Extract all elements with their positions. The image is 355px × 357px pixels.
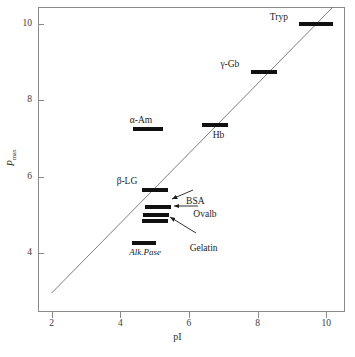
data-bar-alpha-Am [133,127,163,131]
x-tick-label-4: 4 [111,318,129,328]
y-tick-6 [38,177,44,178]
x-tick-label-2: 2 [43,318,61,328]
label-gamma-Gb: γ-Gb [220,59,239,69]
label-Gelatin: Gelatin [190,243,218,253]
data-bar-Ovalb [143,213,169,217]
x-axis-title: pI [0,331,355,342]
protein-pi-pmax-chart: 46810 246810 Trypγ-GbHbα-Amβ-LGBSAOvalbG… [0,0,355,357]
data-bar-Tryp [299,22,333,26]
plot-frame [38,7,345,312]
label-Ovalb: Ovalb [193,209,216,219]
label-Hb: Hb [213,130,225,140]
y-tick-8 [38,100,44,101]
label-Tryp: Tryp [270,12,288,22]
x-tick-label-10: 10 [317,318,335,328]
data-bar-beta-LG [142,188,168,192]
y-tick-10 [38,24,44,25]
data-bar-Alk.Pase [132,241,156,245]
label-beta-LG: β-LG [117,176,138,186]
y-axis-title: Pmax [5,135,17,181]
data-bar-Gelatin [142,219,168,223]
label-alpha-Am: α-Am [130,115,152,125]
y-tick-label-4: 4 [14,247,32,257]
label-BSA: BSA [186,196,204,206]
data-bar-gamma-Gb [251,70,277,74]
data-bar-BSA [145,205,171,209]
y-tick-label-8: 8 [14,94,32,104]
y-axis-title-subscript: max [10,149,17,160]
y-axis-title-base: P [5,160,16,166]
data-bar-Hb [202,123,228,127]
x-tick-label-6: 6 [180,318,198,328]
label-Alk.Pase: Alk.Pase [129,247,161,257]
x-tick-label-8: 8 [249,318,267,328]
y-tick-4 [38,253,44,254]
y-tick-label-10: 10 [14,18,32,28]
